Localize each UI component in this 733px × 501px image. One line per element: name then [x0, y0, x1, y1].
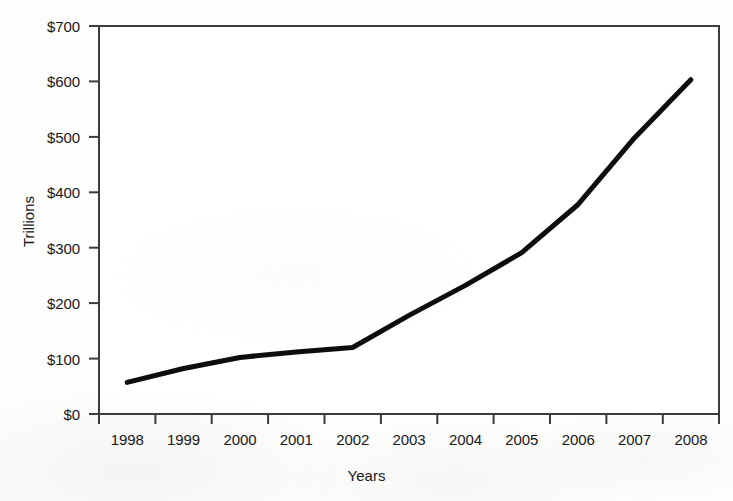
x-axis-ticks	[99, 414, 719, 424]
y-axis-ticks	[89, 26, 99, 414]
plot-frame	[99, 26, 719, 414]
line-chart-figure: $0 $100 $200 $300 $400 $500 $600 $700 19…	[0, 0, 733, 501]
chart-plot-area	[0, 0, 733, 501]
